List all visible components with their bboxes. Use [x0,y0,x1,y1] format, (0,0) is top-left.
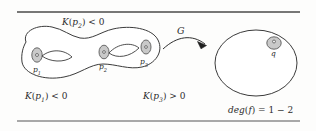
point-label-p3-sub: 3 [145,62,148,68]
point-label-q: q [271,50,276,58]
curvature-label-p2-relation: < 0 [88,17,104,27]
map-arrow-G-head [198,42,207,49]
degree-label-value: 1 − 2 [269,105,294,115]
point-label-p1-sub: 1 [38,70,41,76]
math-figure: K(p2) < 0 p1 p2 p3 G q K(p1) < 0 K(p3) >… [0,0,316,131]
curvature-label-p3: K(p3) > 0 [143,92,185,103]
paren-close: ) [163,91,167,101]
curvature-label-p3-relation: > 0 [169,91,185,101]
curvature-label-p1-fn: K [25,91,32,101]
point-label-p2: p2 [99,63,107,73]
critical-point-p3-center-dot [145,46,148,49]
paren-close: ) [82,17,86,27]
paren-close: ) [45,91,49,101]
curvature-label-p1-relation: < 0 [51,91,67,101]
dumbbell-region-outline [22,26,160,78]
point-label-p2-sub: 2 [104,67,107,73]
critical-point-p1-center-dot [36,54,39,57]
degree-label-equals: = [258,105,266,115]
paren-close: ) [252,105,256,115]
degree-label-fn: deg [228,105,245,115]
critical-point-p2-center-dot [103,51,106,54]
curvature-label-p1: K(p1) < 0 [25,92,67,103]
image-point-q-center-dot [273,40,276,43]
point-label-p1: p1 [33,66,41,76]
degree-label: deg(f) = 1 − 2 [228,106,293,115]
target-circle-outline [215,30,297,96]
curvature-label-p2-fn: K [62,17,69,27]
curvature-label-p3-fn: K [143,91,150,101]
map-label-G: G [177,26,185,36]
curvature-label-p2: K(p2) < 0 [62,18,104,29]
point-label-p3: p3 [140,58,148,68]
